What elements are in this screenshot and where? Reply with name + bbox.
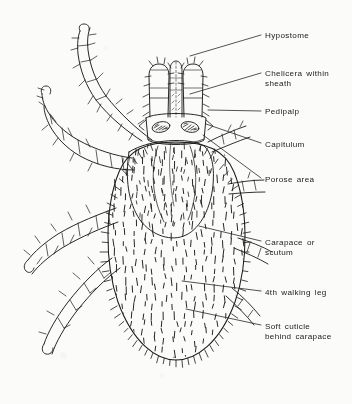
leg-4-right bbox=[226, 288, 260, 325]
porose-area-right bbox=[180, 120, 200, 134]
leg-2-right bbox=[228, 172, 265, 194]
label-pedipalp: Pedipalp bbox=[265, 107, 299, 117]
label-soft-cuticle: Soft cuticle behind carapace bbox=[265, 322, 332, 342]
leader-chelicera bbox=[190, 73, 261, 94]
soft-cuticle-texture bbox=[101, 148, 248, 366]
leader-fourth-walking-leg bbox=[182, 281, 261, 291]
leg-1-right bbox=[208, 121, 250, 152]
label-hypostome: Hypostome bbox=[265, 31, 309, 41]
leg-4-left bbox=[39, 257, 120, 354]
tick-anatomy-figure bbox=[0, 0, 352, 404]
leader-capitulum bbox=[206, 124, 261, 143]
label-carapace: Carapace or scutum bbox=[265, 238, 315, 258]
leader-pedipalp bbox=[208, 110, 261, 111]
label-chelicera: Chelicera within sheath bbox=[265, 69, 329, 89]
label-capitulum: Capitulum bbox=[265, 140, 305, 150]
porose-area-left bbox=[151, 120, 171, 134]
scutum-punctations bbox=[122, 144, 213, 242]
capitulum bbox=[139, 114, 213, 145]
leader-lines bbox=[182, 35, 261, 325]
leader-carapace bbox=[199, 226, 261, 241]
label-fourth-walking-leg: 4th walking leg bbox=[265, 288, 327, 298]
leader-porose-area bbox=[203, 135, 261, 178]
leg-1-left bbox=[71, 24, 152, 141]
pedipalp-left bbox=[143, 57, 174, 117]
label-porose-area: Porose area bbox=[265, 175, 314, 185]
leader-hypostome bbox=[190, 35, 261, 56]
pedipalp-right bbox=[178, 57, 209, 117]
leader-soft-cuticle bbox=[186, 309, 261, 325]
hypostome bbox=[168, 61, 184, 117]
